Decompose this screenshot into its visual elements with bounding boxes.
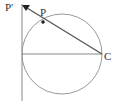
label-p: P: [40, 6, 46, 18]
point-p: [41, 20, 45, 24]
secant-line-c-to-p-prime: [27, 8, 102, 54]
label-p-prime: P′: [5, 1, 14, 13]
p-prime-arrow-icon: [22, 5, 30, 11]
inversion-diagram: P′ P C: [0, 0, 118, 110]
label-c: C: [104, 50, 111, 62]
